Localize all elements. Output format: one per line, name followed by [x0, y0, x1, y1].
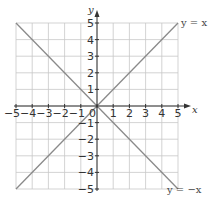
- x-tick-label: −2: [52, 107, 68, 120]
- x-tick-label: 3: [142, 107, 149, 120]
- y-axis-label: y: [87, 4, 94, 15]
- y-tick-label: −3: [78, 150, 94, 163]
- y-tick-label: 3: [87, 50, 94, 63]
- x-tick-label: −5: [4, 107, 20, 120]
- label-y-equals-neg-x: y = −x: [166, 184, 202, 195]
- label-y-equals-x: y = x: [180, 17, 207, 28]
- x-axis-arrow-icon: [184, 104, 191, 109]
- x-tick-label: 4: [158, 107, 165, 120]
- x-tick-label: 1: [110, 107, 117, 120]
- y-tick-label: −5: [78, 183, 94, 196]
- x-tick-label: 5: [175, 107, 182, 120]
- y-tick-label: −2: [78, 133, 94, 146]
- y-axis-arrow-icon: [95, 10, 100, 17]
- x-axis-label: x: [192, 104, 198, 115]
- y-tick-label: 1: [87, 83, 94, 96]
- y-tick-label: 5: [87, 17, 94, 30]
- x-tick-label: −4: [20, 107, 36, 120]
- coordinate-plane: y = xy = −x −5−4−3−2−112345−5−4−3−2−1123…: [0, 0, 215, 207]
- y-tick-label: 4: [87, 34, 94, 47]
- x-tick-label: −3: [36, 107, 52, 120]
- x-tick-label: 2: [126, 107, 133, 120]
- origin-label: 0: [89, 107, 96, 120]
- y-tick-label: −4: [78, 166, 94, 179]
- y-tick-label: 2: [87, 67, 94, 80]
